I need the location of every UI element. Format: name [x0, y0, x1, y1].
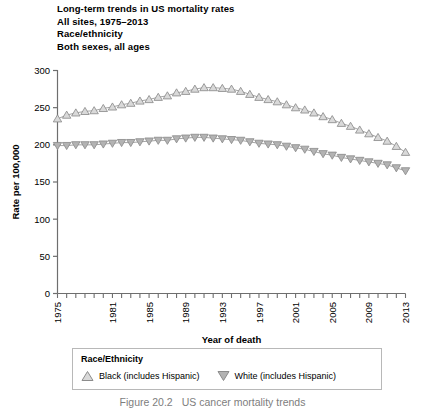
data-point-marker	[392, 165, 400, 172]
y-axis-tick-label: 150	[34, 176, 50, 187]
data-point-marker	[374, 133, 382, 140]
y-axis-tick-label: 300	[34, 65, 50, 76]
data-point-marker	[246, 90, 254, 97]
series-markers-white	[53, 134, 409, 175]
x-axis-tick-label: 1975	[52, 302, 63, 323]
x-axis-tick-label: 2005	[327, 302, 338, 323]
x-axis-tick-label: 1993	[217, 302, 228, 323]
data-point-marker	[392, 142, 400, 149]
data-point-marker	[255, 93, 263, 100]
legend-label-black: Black (includes Hispanic)	[99, 371, 200, 381]
y-axis-tick-label: 0	[45, 288, 50, 299]
data-point-marker	[356, 126, 364, 133]
data-point-marker	[337, 119, 345, 126]
data-point-marker	[319, 113, 327, 120]
down-triangle-icon	[217, 370, 230, 382]
figure-caption-text: US cancer mortality trends	[182, 396, 306, 408]
data-point-marker	[401, 148, 409, 155]
data-point-marker	[328, 116, 336, 123]
data-point-marker	[383, 162, 391, 169]
y-axis-title: Rate per 100,000	[10, 145, 21, 220]
data-point-marker	[291, 104, 299, 111]
x-axis-tick-label: 2001	[290, 302, 301, 323]
series-markers-black	[53, 84, 409, 156]
y-axis-tick-label: 200	[34, 139, 50, 150]
data-point-marker	[365, 130, 373, 137]
figure-caption-number: Figure 20.2	[120, 396, 173, 408]
x-axis-title: Year of death	[202, 334, 262, 345]
up-triangle-icon	[81, 370, 94, 382]
x-axis-tick-label: 2009	[363, 302, 374, 323]
line-chart-plot: 0501001502002503001975198119851989199319…	[0, 0, 425, 348]
legend-entry-black[interactable]: Black (includes Hispanic)	[81, 370, 200, 382]
legend-label-white: White (includes Hispanic)	[235, 371, 337, 381]
x-axis-tick-label: 2013	[400, 302, 411, 323]
legend-entries: Black (includes Hispanic) White (include…	[81, 370, 336, 382]
data-point-marker	[282, 101, 290, 108]
x-axis-tick-label: 1997	[254, 302, 265, 323]
data-point-marker	[346, 122, 354, 129]
figure-caption: Figure 20.2US cancer mortality trends	[0, 396, 425, 408]
legend-entry-white[interactable]: White (includes Hispanic)	[217, 370, 337, 382]
data-point-marker	[53, 115, 61, 122]
legend-title: Race/Ethnicity	[81, 354, 143, 364]
y-axis-tick-label: 50	[39, 251, 50, 262]
legend: Race/Ethnicity Black (includes Hispanic)…	[72, 348, 382, 390]
x-axis-tick-label: 1989	[180, 302, 191, 323]
data-point-marker	[383, 137, 391, 144]
data-point-marker	[310, 109, 318, 116]
y-axis-tick-label: 250	[34, 102, 50, 113]
data-point-marker	[401, 168, 409, 175]
data-point-marker	[163, 92, 171, 99]
y-axis-tick-label: 100	[34, 214, 50, 225]
x-axis-tick-label: 1981	[107, 302, 118, 323]
x-axis-tick-label: 1985	[144, 302, 155, 323]
